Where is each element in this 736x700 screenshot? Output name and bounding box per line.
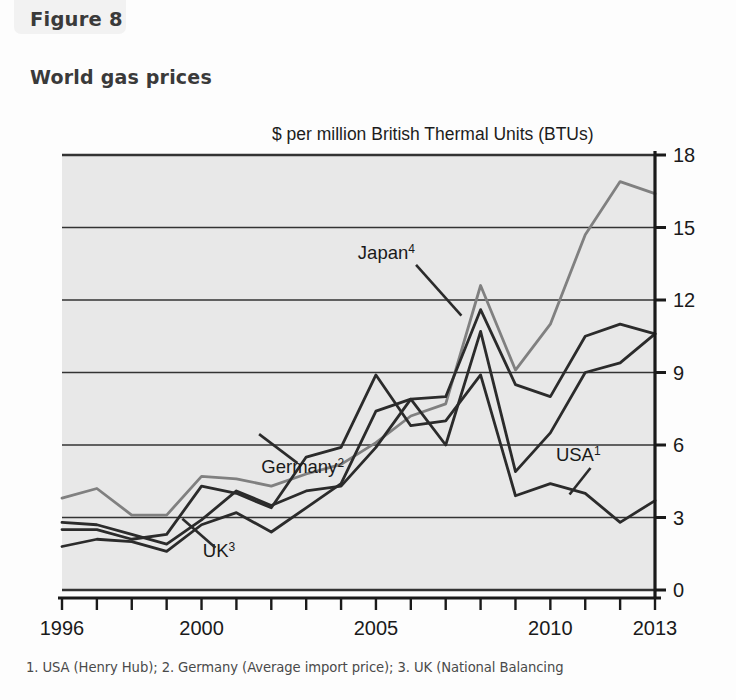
x-axis-tick-label: 2010 xyxy=(528,617,573,639)
figure-page: Figure 8 World gas prices $ per million … xyxy=(0,0,736,700)
x-axis: 19962000200520102013 xyxy=(40,598,678,639)
x-axis-tick-label: 2000 xyxy=(179,617,224,639)
y-axis-tick-label: 6 xyxy=(673,434,684,456)
y-axis-tick-label: 9 xyxy=(673,362,684,384)
y-axis: 0369121518 xyxy=(655,144,695,601)
x-axis-tick-label: 1996 xyxy=(40,617,85,639)
y-axis-tick-label: 0 xyxy=(673,579,684,601)
x-axis-tick-label: 2013 xyxy=(633,617,678,639)
y-axis-tick-label: 12 xyxy=(673,289,695,311)
chart-footnote: 1. USA (Henry Hub); 2. Germany (Average … xyxy=(26,660,563,675)
y-axis-tick-label: 18 xyxy=(673,144,695,166)
y-axis-tick-label: 3 xyxy=(673,507,684,529)
x-axis-tick-label: 2005 xyxy=(354,617,399,639)
y-axis-tick-label: 15 xyxy=(673,217,695,239)
line-chart: 036912151819962000200520102013Japan4Germ… xyxy=(0,0,736,650)
series-label-japan: Japan4 xyxy=(358,242,415,263)
series-label-germany: Germany2 xyxy=(261,456,344,477)
